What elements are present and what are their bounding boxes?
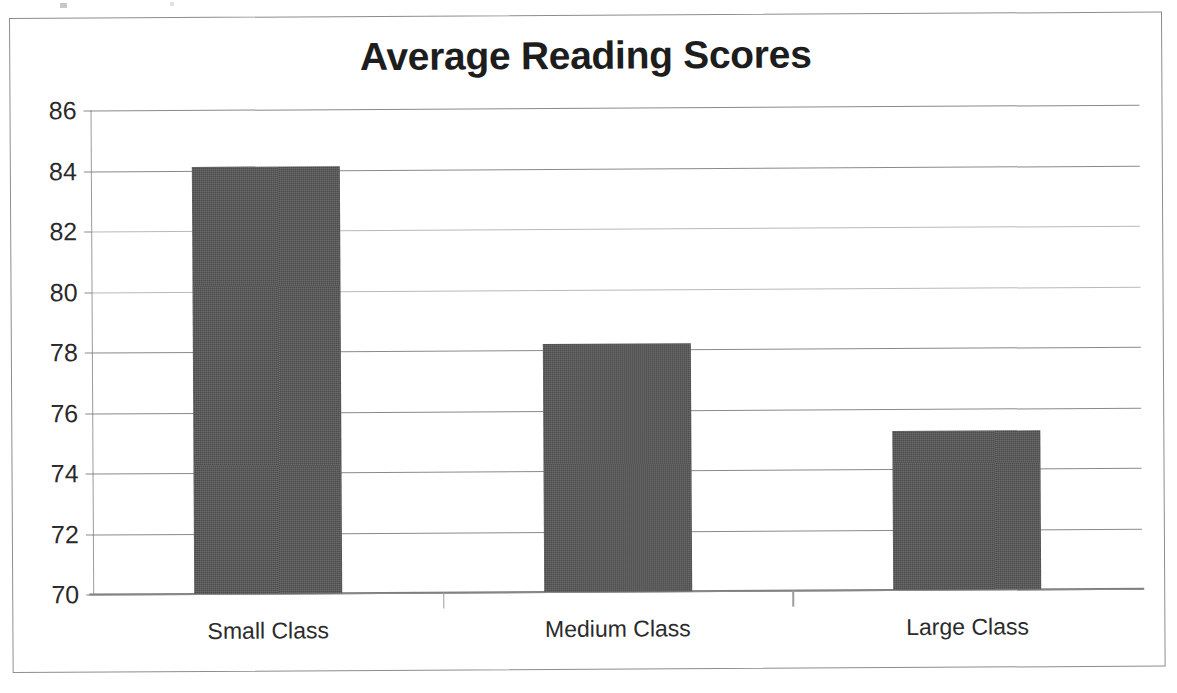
y-axis-tick — [86, 474, 94, 475]
y-axis-label: 70 — [51, 580, 79, 609]
bar[interactable] — [542, 343, 691, 592]
scan-artifact-speck — [60, 3, 67, 8]
y-axis-label: 80 — [50, 278, 78, 307]
y-axis-tick — [84, 232, 92, 233]
gridline — [91, 105, 1140, 112]
y-axis-tick — [86, 595, 94, 596]
y-axis-label: 78 — [50, 338, 78, 367]
chart-canvas: Average Reading Scores 86848280787674727… — [10, 13, 1165, 672]
category-divider-tick — [443, 593, 444, 609]
bar[interactable] — [192, 167, 342, 594]
y-axis-label: 84 — [49, 157, 77, 186]
plot-area: 868482807876747270 — [91, 105, 1143, 595]
y-axis-tick — [84, 111, 92, 112]
x-axis-category-labels: Small ClassMedium ClassLarge Class — [93, 613, 1142, 659]
y-axis-label: 74 — [51, 459, 79, 488]
y-axis-tick — [85, 413, 93, 414]
y-axis-label: 82 — [49, 217, 77, 246]
y-axis-tick — [85, 353, 93, 354]
y-axis-tick — [86, 534, 94, 535]
y-axis-label: 76 — [50, 399, 78, 428]
x-axis-category-label: Medium Class — [545, 615, 691, 643]
x-axis-category-label: Large Class — [906, 613, 1029, 641]
scan-artifact-speck — [170, 2, 174, 6]
bar[interactable] — [892, 430, 1041, 590]
y-axis-tick — [84, 171, 92, 172]
y-axis-label: 72 — [51, 520, 79, 549]
y-axis-label: 86 — [49, 96, 77, 125]
chart-title: Average Reading Scores — [10, 31, 1161, 81]
category-divider-tick — [793, 591, 794, 607]
y-axis-tick — [85, 292, 93, 293]
chart-frame: Average Reading Scores 86848280787674727… — [9, 12, 1166, 673]
x-axis-category-label: Small Class — [207, 617, 329, 645]
